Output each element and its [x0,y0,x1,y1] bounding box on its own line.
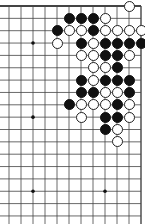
white-stone[interactable] [100,62,111,73]
black-stone[interactable] [52,25,63,36]
black-stone[interactable] [76,13,87,24]
black-stone[interactable] [88,87,99,98]
go-board [0,0,145,224]
white-stone[interactable] [88,62,99,73]
white-stone[interactable] [76,112,87,123]
white-stone[interactable] [100,25,111,36]
black-stone[interactable] [124,38,135,49]
white-stone[interactable] [112,136,123,147]
black-stone[interactable] [136,38,146,49]
white-stone[interactable] [52,38,63,49]
white-stone[interactable] [112,87,123,98]
black-stone[interactable] [64,13,75,24]
white-stone[interactable] [88,99,99,110]
black-stone[interactable] [112,50,123,61]
white-stone[interactable] [112,25,123,36]
white-stone[interactable] [100,87,111,98]
star-point [31,115,35,119]
star-point [31,41,35,45]
white-stone[interactable] [124,25,135,36]
black-stone[interactable] [76,38,87,49]
white-stone[interactable] [100,99,111,110]
black-stone[interactable] [112,75,123,86]
black-stone[interactable] [64,99,75,110]
white-stone[interactable] [124,112,135,123]
white-stone[interactable] [88,75,99,86]
black-stone[interactable] [100,75,111,86]
white-stone[interactable] [64,25,75,36]
white-stone[interactable] [124,99,135,110]
white-stone[interactable] [76,25,87,36]
white-stone[interactable] [88,50,99,61]
black-stone[interactable] [124,87,135,98]
black-stone[interactable] [100,112,111,123]
black-stone[interactable] [112,38,123,49]
black-stone[interactable] [88,25,99,36]
star-point [31,189,35,193]
white-stone[interactable] [136,25,146,36]
black-stone[interactable] [76,75,87,86]
black-stone[interactable] [100,50,111,61]
black-stone[interactable] [112,112,123,123]
black-stone[interactable] [112,99,123,110]
black-stone[interactable] [112,62,123,73]
white-stone[interactable] [100,13,111,24]
white-stone[interactable] [112,124,123,135]
white-stone[interactable] [76,99,87,110]
star-point [103,189,107,193]
white-stone[interactable] [124,1,135,12]
black-stone[interactable] [100,124,111,135]
black-stone[interactable] [100,38,111,49]
white-stone[interactable] [76,50,87,61]
white-stone[interactable] [88,38,99,49]
white-stone[interactable] [124,50,135,61]
black-stone[interactable] [124,75,135,86]
black-stone[interactable] [88,13,99,24]
black-stone[interactable] [76,87,87,98]
